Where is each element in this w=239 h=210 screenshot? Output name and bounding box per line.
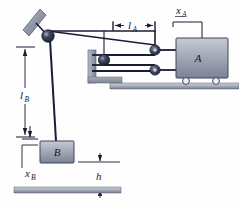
block-b: B bbox=[40, 141, 74, 163]
h-label: h bbox=[96, 170, 102, 182]
cart-a: A bbox=[176, 38, 228, 78]
xb-label-sub: B bbox=[31, 173, 36, 182]
la-label-sub: A bbox=[132, 25, 138, 34]
block-b-label: B bbox=[54, 146, 61, 158]
xa-label-sub: A bbox=[181, 10, 187, 19]
rope-vertical-to-block bbox=[50, 40, 56, 141]
lb-dimension bbox=[16, 47, 35, 137]
main-pulley bbox=[42, 30, 54, 42]
lb-label-sub: B bbox=[25, 95, 30, 104]
cart-pulley-upper bbox=[150, 45, 160, 55]
upper-ground-surface bbox=[110, 83, 239, 89]
xa-dimension bbox=[173, 22, 202, 38]
diagram-canvas: A x A l bbox=[0, 0, 239, 210]
xa-label-main: x bbox=[175, 4, 181, 16]
rope-top-horizontal bbox=[48, 31, 155, 45]
movable-pulley-left bbox=[98, 54, 109, 65]
lower-ground-surface bbox=[14, 187, 121, 193]
cart-a-label: A bbox=[194, 52, 202, 64]
xb-label-main: x bbox=[24, 167, 30, 179]
mechanics-diagram-figure: A x A l bbox=[0, 0, 239, 210]
lb-label-main: l bbox=[20, 89, 23, 101]
la-label-main: l bbox=[128, 19, 131, 31]
cart-pulley-lower bbox=[150, 65, 160, 75]
